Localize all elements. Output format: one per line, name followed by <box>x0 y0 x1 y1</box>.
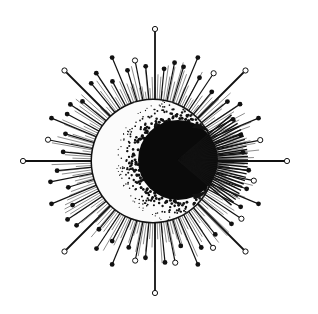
open-dot-icon <box>62 249 67 254</box>
open-dot-icon <box>45 137 50 142</box>
solid-dot-icon <box>244 186 249 191</box>
solid-dot-icon <box>238 102 243 107</box>
solid-dot-icon <box>65 217 70 222</box>
solid-dot-icon <box>48 179 53 184</box>
solid-dot-icon <box>68 102 73 107</box>
solid-dot-icon <box>238 204 243 209</box>
open-dot-icon <box>20 158 25 163</box>
solid-dot-icon <box>181 64 186 69</box>
open-dot-icon <box>284 158 289 163</box>
solid-dot-icon <box>256 116 261 121</box>
open-dot-icon <box>152 290 157 295</box>
solid-dot-icon <box>178 244 183 249</box>
open-dot-icon <box>62 68 67 73</box>
open-dot-icon <box>251 178 256 183</box>
solid-dot-icon <box>70 203 75 208</box>
solid-dot-icon <box>229 221 234 226</box>
open-dot-icon <box>210 245 215 250</box>
solid-dot-icon <box>162 66 167 71</box>
solid-dot-icon <box>63 131 68 136</box>
solid-dot-icon <box>125 68 130 73</box>
open-dot-icon <box>173 260 178 265</box>
open-dot-icon <box>258 137 263 142</box>
solid-dot-icon <box>89 81 94 86</box>
solid-dot-icon <box>197 75 202 80</box>
open-dot-icon <box>132 58 137 63</box>
solid-dot-icon <box>195 55 200 60</box>
open-dot-icon <box>243 249 248 254</box>
solid-dot-icon <box>195 262 200 267</box>
solid-dot-icon <box>80 99 85 104</box>
open-dot-icon <box>152 26 157 31</box>
solid-dot-icon <box>143 64 148 69</box>
solid-dot-icon <box>110 79 115 84</box>
moon-sunburst-illustration <box>0 0 318 314</box>
solid-dot-icon <box>213 232 218 237</box>
solid-dot-icon <box>61 150 66 155</box>
solid-dot-icon <box>110 55 115 60</box>
solid-dot-icon <box>94 246 99 251</box>
solid-dot-icon <box>55 168 60 173</box>
solid-dot-icon <box>209 89 214 94</box>
solid-dot-icon <box>110 262 115 267</box>
solid-dot-icon <box>126 245 131 250</box>
solid-dot-icon <box>97 227 102 232</box>
solid-dot-icon <box>172 60 177 65</box>
solid-dot-icon <box>74 223 79 228</box>
solid-dot-icon <box>49 116 54 121</box>
open-dot-icon <box>133 258 138 263</box>
solid-dot-icon <box>163 260 168 265</box>
solid-dot-icon <box>94 71 99 76</box>
illustration-canvas <box>0 0 318 314</box>
solid-dot-icon <box>225 99 230 104</box>
open-dot-icon <box>211 71 216 76</box>
solid-dot-icon <box>143 255 148 260</box>
open-dot-icon <box>243 68 248 73</box>
solid-dot-icon <box>256 201 261 206</box>
solid-dot-icon <box>110 239 115 244</box>
solid-dot-icon <box>199 245 204 250</box>
solid-dot-icon <box>66 185 71 190</box>
solid-dot-icon <box>49 201 54 206</box>
solid-dot-icon <box>65 112 70 117</box>
open-dot-icon <box>239 216 244 221</box>
